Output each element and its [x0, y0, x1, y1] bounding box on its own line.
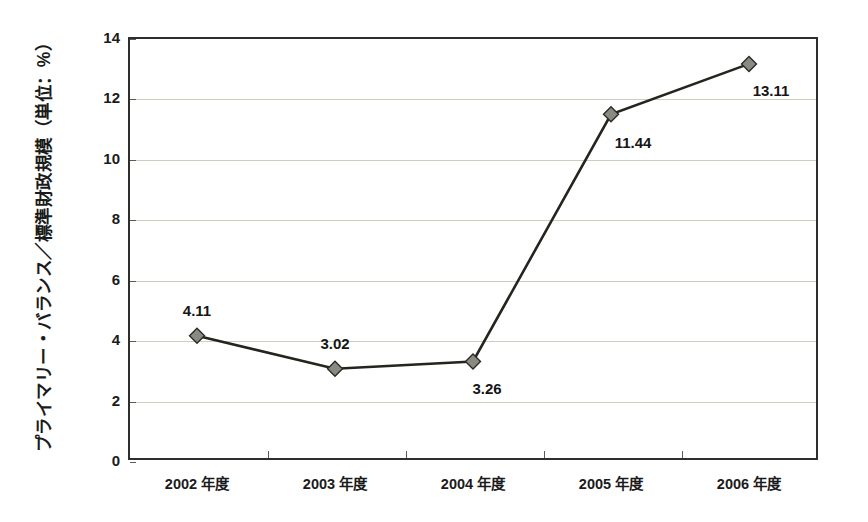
- y-axis-tick-mark: [130, 160, 136, 161]
- x-axis-tick-mark: [682, 451, 683, 458]
- y-axis-tick-mark: [130, 39, 136, 40]
- y-axis-tick-mark: [130, 281, 136, 282]
- data-point-label: 3.26: [472, 379, 501, 396]
- gridline: [130, 220, 816, 221]
- plot-area: [128, 37, 818, 460]
- gridline: [130, 160, 816, 161]
- y-axis-tick-label: 8: [60, 210, 120, 227]
- x-axis-tick-label: 2006 年度: [669, 472, 829, 493]
- y-axis-tick-label: 14: [60, 29, 120, 46]
- y-axis-tick-mark: [130, 462, 136, 463]
- y-axis-tick-mark: [130, 99, 136, 100]
- y-axis-tick-mark: [130, 341, 136, 342]
- y-axis-tick-label: 0: [60, 452, 120, 469]
- x-axis-tick-label: 2002 年度: [117, 472, 277, 493]
- y-axis-tick-label: 10: [60, 149, 120, 166]
- y-axis-tick-label: 2: [60, 391, 120, 408]
- x-axis-tick-mark: [544, 451, 545, 458]
- y-axis-tick-label: 4: [60, 331, 120, 348]
- data-point-label: 3.02: [320, 334, 349, 351]
- y-axis-tick-mark: [130, 220, 136, 221]
- y-axis-tick-mark: [130, 402, 136, 403]
- x-axis-tick-label: 2005 年度: [531, 472, 691, 493]
- x-axis-tick-label: 2003 年度: [255, 472, 415, 493]
- chart-figure: プライマリー・バランス／標準財政規模（単位：%） 02468101214 200…: [0, 0, 868, 522]
- data-point-label: 4.11: [183, 301, 211, 318]
- x-axis-tick-mark: [406, 451, 407, 458]
- gridline: [130, 341, 816, 342]
- gridline: [130, 402, 816, 403]
- y-axis-tick-label: 12: [60, 89, 120, 106]
- x-axis-tick-label: 2004 年度: [393, 472, 553, 493]
- gridline: [130, 99, 816, 100]
- gridline: [130, 281, 816, 282]
- data-point-label: 11.44: [615, 134, 652, 151]
- x-axis-tick-mark: [268, 451, 269, 458]
- y-axis-tick-label: 6: [60, 270, 120, 287]
- data-point-label: 13.11: [753, 81, 790, 98]
